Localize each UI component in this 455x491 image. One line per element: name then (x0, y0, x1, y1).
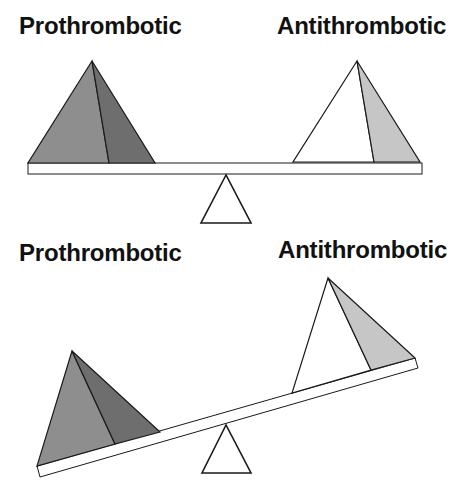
balance-diagram (0, 0, 455, 491)
panel1-fulcrum-triangle (201, 175, 251, 223)
panel1-beam (28, 163, 422, 174)
panel1-balanced-scale (28, 61, 422, 223)
panel2-fulcrum-triangle (202, 425, 251, 473)
panel1-antithrombotic-pyramid (293, 61, 420, 162)
panel2-prothrombotic-pyramid (37, 351, 160, 466)
panel1-prothrombotic-pyramid (28, 61, 155, 163)
panel2-tipped-scale (37, 278, 418, 477)
